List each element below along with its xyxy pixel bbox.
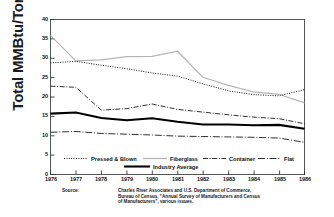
legend-label-flat: Flat bbox=[284, 156, 294, 162]
legend-label-fiberglass: Fiberglass bbox=[170, 156, 198, 162]
chart-figure: Total MMBtu/Ton 40 35 30 25 20 15 10 5 0… bbox=[0, 0, 334, 217]
source-note: Charles River Associates and U.S. Depart… bbox=[118, 188, 318, 205]
source-label: Source: bbox=[62, 188, 79, 193]
legend-label-container: Container bbox=[229, 156, 255, 162]
source-note-line-3: of Manufacturers", various issues. bbox=[118, 199, 318, 205]
legend-label-pressed-and-blown: Pressed & Blown bbox=[91, 156, 137, 162]
series-line-container bbox=[51, 86, 305, 124]
plot-area bbox=[0, 0, 334, 217]
series-group bbox=[51, 35, 305, 142]
series-line-fiberglass bbox=[51, 35, 305, 102]
y-tick-marks bbox=[51, 20, 55, 175]
plot-frame bbox=[51, 20, 305, 175]
x-tick-marks bbox=[51, 171, 305, 175]
series-line-flat bbox=[51, 131, 305, 142]
series-line-industry-average bbox=[51, 113, 305, 129]
series-line-pressed-and-blown bbox=[51, 61, 305, 95]
legend-label-industry-average: Industry Average bbox=[153, 164, 198, 170]
